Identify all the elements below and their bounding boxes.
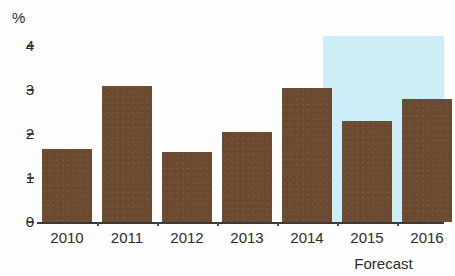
x-tick-mark-5 — [397, 222, 399, 226]
x-tick-label-2011: 2011 — [99, 230, 155, 245]
x-tick-label-2010: 2010 — [39, 230, 95, 245]
x-tick-mark-3 — [277, 222, 279, 226]
x-tick-mark-2 — [217, 222, 219, 226]
x-tick-mark-1 — [157, 222, 159, 226]
x-tick-label-2015: 2015 — [339, 230, 395, 245]
x-tick-label-2012: 2012 — [159, 230, 215, 245]
bar-2013 — [222, 132, 272, 222]
x-tick-label-2016: 2016 — [399, 230, 455, 245]
x-tick-mark-0 — [97, 222, 99, 226]
bar-2011 — [102, 86, 152, 222]
bar-2012 — [162, 152, 212, 222]
y-tick-label-3: 3 — [0, 82, 34, 97]
bar-2010 — [42, 149, 92, 222]
y-axis-unit-label: % — [12, 10, 25, 25]
bar-2016 — [402, 99, 452, 222]
y-tick-label-4: 4 — [0, 38, 34, 53]
y-tick-label-2: 2 — [0, 126, 34, 141]
bar-2014 — [282, 88, 332, 222]
y-tick-label-1: 1 — [0, 170, 34, 185]
bars-layer — [37, 36, 444, 222]
x-tick-mark-4 — [337, 222, 339, 226]
bar-2015 — [342, 121, 392, 222]
forecast-label: Forecast — [323, 256, 444, 271]
y-tick-label-0: 0 — [0, 214, 34, 229]
x-tick-label-2014: 2014 — [279, 230, 335, 245]
x-tick-label-2013: 2013 — [219, 230, 275, 245]
